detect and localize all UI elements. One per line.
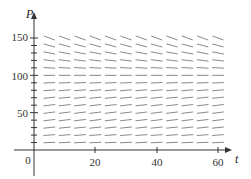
slope-segment [75,60,86,61]
slope-segment [182,68,193,69]
slope-segment [182,97,193,98]
slope-segment [59,68,70,69]
slope-segment [167,52,178,54]
slope-segment [44,127,55,128]
slope-segment [182,119,193,120]
slope-segment [151,60,162,61]
slope-segment [197,119,208,120]
slope-segment [44,97,55,98]
slope-segment [60,36,70,40]
slope-segment [167,90,178,91]
slope-segment [75,119,86,120]
t-tick-label-40: 40 [152,156,164,168]
slope-segment [167,105,178,106]
slope-segment [136,68,147,69]
slope-segment [197,90,208,91]
slope-segment [151,112,162,113]
slope-segment [167,135,178,136]
slope-segment [213,68,224,69]
slope-segment [90,36,100,40]
slope-segment [167,97,178,98]
slope-segment [90,60,101,61]
slope-segment [197,68,208,69]
slope-segment [90,52,101,54]
slope-segment [90,90,101,91]
slope-segment [90,135,101,136]
slope-segment [121,105,132,106]
slope-segment [151,105,162,106]
slope-segment [213,97,224,98]
slope-segment [151,127,162,128]
slope-segment [59,105,70,106]
slope-segment [213,105,224,106]
direction-field-chart: 20 40 60 150 100 50 0 P t [0,0,251,179]
slope-segment [59,127,70,128]
slope-segment [105,105,116,106]
slope-segment [213,135,224,136]
slope-segment [151,44,162,47]
slope-segment [75,112,86,113]
slope-segment [59,44,70,47]
slope-segment [136,112,147,113]
slope-segment [167,44,178,47]
slope-segment [167,36,177,40]
slope-segment [136,60,147,61]
slope-segment [197,52,208,54]
slope-segment [213,60,224,61]
slope-segment [167,127,178,128]
slope-segment [136,127,147,128]
slope-segment [105,119,116,120]
slope-segment [197,97,208,98]
slope-segment [167,119,178,120]
slope-segment [213,112,224,113]
slope-segment [152,36,162,40]
slope-segment [213,90,224,91]
slope-segment [75,44,86,47]
slope-segment [90,44,101,47]
slope-segment [121,119,132,120]
slope-segment [75,68,86,69]
p-tick-label-100: 100 [12,70,29,82]
slope-segment [213,36,223,40]
slope-segment [105,135,116,136]
slope-segment [44,68,55,69]
origin-label: 0 [25,154,31,166]
slope-segment [167,112,178,113]
slope-segment [182,36,192,40]
slope-segment [105,90,116,91]
slope-segment [105,68,116,69]
slope-segment [197,105,208,106]
slope-segment [136,135,147,136]
slope-segment [105,112,116,113]
slope-segment [182,44,193,47]
slope-segment [121,68,132,69]
slope-segment [90,119,101,120]
slope-segment [121,97,132,98]
slope-segment [151,90,162,91]
slope-segment [44,135,55,136]
p-axis-label: P [25,7,34,21]
slope-segment [75,105,86,106]
slope-segment [136,52,147,54]
t-axis-label: t [235,152,239,166]
slope-segment [213,44,224,47]
slope-segment [44,105,55,106]
p-tick-label-50: 50 [17,107,29,119]
slope-segment [59,52,70,54]
slope-segment [44,36,54,40]
slope-segment [136,119,147,120]
slope-segment [90,105,101,106]
slope-segment [90,68,101,69]
slope-segment [136,90,147,91]
slope-segment [121,135,132,136]
slope-segment [136,105,147,106]
slope-segment [75,127,86,128]
slope-segment [44,119,55,120]
slope-segment [151,68,162,69]
slope-segment [44,60,55,61]
slope-segment [136,97,147,98]
slope-segment [121,90,132,91]
slope-segment [151,119,162,120]
slope-segment [59,112,70,113]
slope-segment [213,127,224,128]
